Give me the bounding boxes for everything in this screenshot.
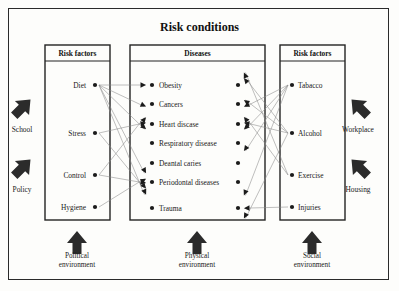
left-column-header: Risk factors: [59, 49, 97, 58]
context-arrow-bottom-0: [67, 231, 87, 254]
right-column-header: Risk factors: [294, 49, 332, 58]
node-label-diet: Diet: [73, 81, 87, 90]
context-label-policy: Policy: [13, 185, 32, 194]
node-dot-right: [236, 180, 240, 184]
node-dot-right: [236, 141, 240, 145]
middle-column-header: Diseases: [184, 49, 210, 58]
node-dot-left: [150, 122, 154, 126]
context-label-bottom-0-line2: environment: [59, 261, 95, 269]
node-dot-left: [150, 180, 154, 184]
context-arrow-housing: [344, 152, 374, 182]
context-arrow-bottom-1: [187, 231, 207, 254]
node-label-trauma: Trauma: [159, 204, 182, 213]
node-dot-left: [150, 141, 154, 145]
node-dot-control: [93, 173, 97, 177]
context-label-workplace: Workplace: [342, 125, 375, 134]
node-dot-diet: [93, 83, 97, 87]
node-dot-tabacco: [290, 83, 294, 87]
node-dot-alcohol: [290, 131, 294, 135]
node-label-respiratory-disease: Respiratory disease: [159, 139, 217, 148]
node-label-periodontal-diseases: Periodontal diseases: [159, 178, 219, 187]
node-dot-right: [236, 102, 240, 106]
node-label-hygiene: Hygiene: [61, 203, 87, 212]
node-label-alcohol: Alcohol: [298, 129, 322, 138]
context-arrow-school: [7, 92, 37, 122]
node-label-tabacco: Tabacco: [298, 81, 323, 90]
node-label-cancers: Cancers: [159, 100, 183, 109]
context-label-housing: Housing: [345, 185, 370, 194]
node-label-exercise: Exercise: [298, 171, 324, 180]
node-dot-left: [150, 206, 154, 210]
node-dot-exercise: [290, 173, 294, 177]
risk-conditions-diagram: Risk conditions Risk factorsDiseasesRisk…: [0, 0, 399, 291]
context-label-school: School: [12, 125, 33, 134]
context-arrow-workplace: [344, 92, 374, 122]
context-arrow-policy: [7, 152, 37, 182]
node-dot-right: [236, 83, 240, 87]
node-dot-right: [236, 122, 240, 126]
node-dot-stress: [93, 131, 97, 135]
node-dot-left: [150, 83, 154, 87]
context-label-bottom-1-line2: environment: [179, 261, 215, 269]
node-dot-right: [236, 161, 240, 165]
page-title: Risk conditions: [160, 20, 239, 34]
node-dot-right: [236, 206, 240, 210]
node-dot-left: [150, 102, 154, 106]
node-label-injuries: Injuries: [298, 203, 321, 212]
node-dot-injuries: [290, 205, 294, 209]
context-label-bottom-1-line1: Physical: [185, 252, 209, 260]
diagram-figure: Risk conditions Risk factorsDiseasesRisk…: [0, 0, 399, 291]
node-label-control: Control: [63, 171, 86, 180]
node-dot-left: [150, 161, 154, 165]
context-label-bottom-2-line2: environment: [294, 261, 330, 269]
node-dot-hygiene: [93, 205, 97, 209]
context-label-bottom-0-line1: Political: [65, 252, 89, 260]
node-label-stress: Stress: [68, 129, 86, 138]
node-label-deantal-caries: Deantal caries: [159, 159, 201, 168]
context-label-bottom-2-line1: Social: [303, 252, 321, 260]
node-label-obesity: Obesity: [159, 81, 182, 90]
node-label-heart-discase: Heart discase: [159, 120, 199, 129]
context-arrow-bottom-2: [302, 231, 322, 254]
